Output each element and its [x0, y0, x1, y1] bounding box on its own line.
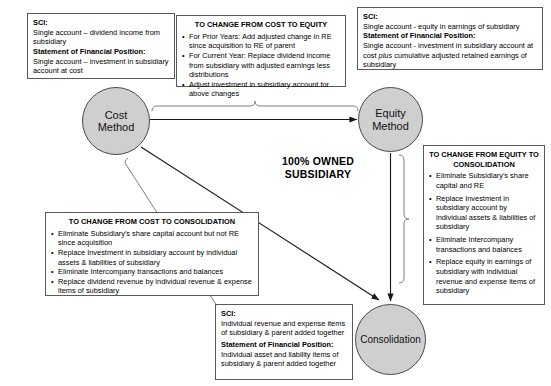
- sci-heading: SCI:: [221, 309, 347, 319]
- box-heading: TO CHANGE FROM COST TO EQUITY: [182, 20, 340, 30]
- list-item: Eliminate Intercompany transactions and …: [51, 267, 253, 277]
- center-caption: 100% OWNED SUBSIDIARY: [258, 155, 378, 181]
- sfp-text: Single account - investment in subsidiar…: [363, 41, 537, 70]
- box-sci-cost-method: SCI: Single account – dividend income fr…: [27, 13, 175, 79]
- consolidation-methods-diagram: Cost Method Equity Method Consolidation …: [0, 0, 551, 386]
- list-item: Adjust investment in subsidiary account …: [182, 80, 340, 99]
- box-heading: TO CHANGE FROM COST TO CONSOLIDATION: [51, 217, 253, 227]
- sci-heading: SCI:: [33, 18, 169, 28]
- list-item: Eliminate Subsidiary's share capital and…: [429, 171, 539, 190]
- list-item: For Prior Years: Add adjusted change in …: [182, 32, 340, 51]
- node-equity-method-label: Equity Method: [372, 107, 409, 132]
- sfp-text: Single account – investment in subsidiar…: [33, 57, 169, 76]
- box-heading: TO CHANGE FROM EQUITY TO CONSOLIDATION: [429, 150, 539, 169]
- box-cost-to-consolidation: TO CHANGE FROM COST TO CONSOLIDATION Eli…: [45, 212, 259, 296]
- sfp-heading: Statement of Financial Position:: [33, 47, 169, 57]
- sfp-text: Individual asset and liability items of …: [221, 350, 347, 369]
- list-item: Replace equity in earnings of subsidiary…: [429, 257, 539, 296]
- sci-heading: SCI:: [363, 12, 537, 22]
- box-equity-to-consolidation: TO CHANGE FROM EQUITY TO CONSOLIDATION E…: [423, 145, 545, 305]
- sci-text: Single account - equity in earnings of s…: [363, 22, 537, 32]
- sfp-heading: Statement of Financial Position:: [363, 31, 537, 41]
- box-cost-to-equity: TO CHANGE FROM COST TO EQUITY For Prior …: [176, 15, 346, 87]
- sfp-heading: Statement of Financial Position:: [221, 340, 347, 350]
- sci-text: Individual revenue and expense items of …: [221, 319, 347, 338]
- node-cost-method-label: Cost Method: [98, 109, 135, 134]
- page-title: [120, 0, 420, 4]
- sci-text: Single account – dividend income from su…: [33, 28, 169, 47]
- bullet-list: Eliminate Subsidiary's share capital acc…: [51, 229, 253, 296]
- node-cost-method[interactable]: Cost Method: [82, 87, 150, 155]
- equity-to-consolidation-arrow: [391, 153, 410, 301]
- box-sci-equity-method: SCI: Single account - equity in earnings…: [357, 7, 543, 70]
- sfp-text-emphasis: plus: [379, 51, 393, 60]
- list-item: Eliminate Intercompany transactions and …: [429, 235, 539, 254]
- bullet-list: For Prior Years: Add adjusted change in …: [182, 32, 340, 99]
- bullet-list: Eliminate Subsidiary's share capital and…: [429, 171, 539, 296]
- list-item: Replace dividend revenue by individual r…: [51, 277, 253, 296]
- box-sci-consolidation: SCI: Individual revenue and expense item…: [215, 304, 353, 380]
- list-item: Replace Investment in subsidiary account…: [51, 248, 253, 267]
- node-consolidation-label: Consolidation: [360, 334, 421, 345]
- node-consolidation[interactable]: Consolidation: [355, 304, 426, 375]
- node-equity-method[interactable]: Equity Method: [358, 87, 423, 152]
- list-item: Eliminate Subsidiary's share capital acc…: [51, 229, 253, 248]
- list-item: Replace Investment in subsidiary account…: [429, 194, 539, 233]
- list-item: For Current Year: Replace dividend incom…: [182, 51, 340, 80]
- cost-to-equity-arrow: [150, 101, 358, 120]
